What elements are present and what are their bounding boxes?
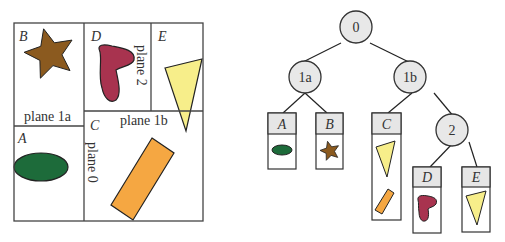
tree-leaf-a-label: A	[277, 117, 287, 132]
region-label-e: E	[157, 29, 167, 44]
region-label-c: C	[90, 118, 100, 133]
edge-1a-a	[283, 93, 305, 113]
plane-2-label: plane 2	[134, 45, 149, 86]
shape-c-rectangle	[111, 138, 174, 220]
tree-leaf-e-label: E	[471, 170, 481, 185]
edge-1a-b	[305, 93, 327, 113]
tree-leaf-d: D	[413, 167, 441, 233]
shape-b-star	[24, 29, 72, 78]
tree-node-2: 2	[436, 114, 468, 146]
bsp-tree: 0 1a 1b 2 A B	[268, 11, 490, 233]
plane-0-label: plane 0	[85, 142, 100, 183]
tree-node-0-label: 0	[353, 20, 360, 35]
region-label-a: A	[17, 131, 27, 146]
edge-1b-c	[388, 93, 412, 113]
bsp-diagram: B D E A C plane 1a plane 1b plane 2 plan…	[0, 0, 505, 242]
tree-leaf-b: B	[316, 113, 343, 169]
tree-node-1b-label: 1b	[403, 70, 417, 85]
tree-leaf-d-label: D	[421, 170, 432, 185]
shape-e-triangle	[165, 59, 202, 131]
shape-d-blob	[99, 45, 134, 101]
tree-leaf-b-label: B	[325, 117, 334, 132]
tree-node-0: 0	[340, 11, 372, 43]
tree-leaf-e: E	[462, 167, 490, 232]
tree-node-1a-label: 1a	[298, 70, 312, 85]
tree-node-1a: 1a	[289, 61, 321, 93]
plane-1a-label: plane 1a	[24, 109, 72, 124]
tree-node-2-label: 2	[449, 123, 456, 138]
plane-1b-label: plane 1b	[120, 113, 168, 128]
tree-leaf-c: C	[372, 113, 401, 220]
tree-leaf-c-label: C	[382, 117, 392, 132]
tree-leaf-a: A	[268, 113, 296, 169]
shape-a-ellipse	[14, 153, 68, 181]
edge-2-e	[469, 142, 477, 167]
region-label-d: D	[90, 29, 101, 44]
spatial-partition: B D E A C plane 1a plane 1b plane 2 plan…	[14, 23, 203, 221]
region-label-b: B	[19, 29, 28, 44]
tree-node-1b: 1b	[394, 61, 426, 93]
leaf-a-ellipse	[272, 145, 292, 155]
